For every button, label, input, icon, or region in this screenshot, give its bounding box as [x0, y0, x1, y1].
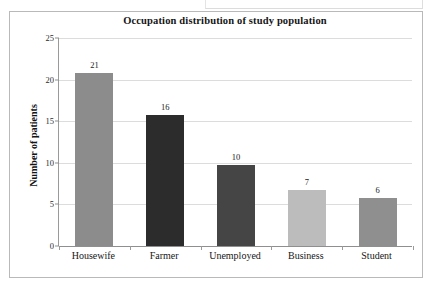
plot-area: 0510152025 21161076 — [58, 38, 412, 246]
x-axis-label-housewife: Housewife — [72, 250, 115, 261]
bar-value-label: 21 — [90, 60, 99, 70]
x-axis-label-unemployed: Unemployed — [209, 250, 261, 261]
y-tick-label-15: 15 — [46, 116, 55, 126]
y-tick-label-20: 20 — [46, 75, 55, 85]
bar-slot: 21 — [59, 38, 130, 246]
x-tick-mark — [413, 246, 414, 250]
bar-value-label: 10 — [232, 152, 241, 162]
y-tick-label-0: 0 — [50, 241, 54, 251]
scan-artifact — [205, 0, 423, 9]
bar-value-label: 6 — [375, 185, 379, 195]
chart-title: Occupation distribution of study populat… — [60, 15, 390, 26]
bar-value-label: 16 — [161, 102, 170, 112]
bar[interactable]: 16 — [146, 115, 184, 246]
bar[interactable]: 7 — [288, 190, 326, 246]
bar-slot: 10 — [201, 38, 272, 246]
bar-slot: 16 — [130, 38, 201, 246]
bar-series: 21161076 — [59, 38, 412, 246]
bar[interactable]: 6 — [359, 198, 397, 246]
bar[interactable]: 21 — [75, 73, 113, 246]
gridline-0 — [59, 246, 412, 247]
bar-value-label: 7 — [305, 177, 309, 187]
x-axis-label-student: Student — [361, 250, 392, 261]
bar-slot: 7 — [271, 38, 342, 246]
y-tick-label-10: 10 — [46, 158, 55, 168]
y-axis-title: Number of patients — [28, 91, 39, 201]
bar-slot: 6 — [342, 38, 413, 246]
x-axis-labels: HousewifeFarmerUnemployedBusinessStudent — [58, 250, 412, 268]
y-tick-label-5: 5 — [50, 199, 54, 209]
bar[interactable]: 10 — [217, 165, 255, 246]
x-axis-label-business: Business — [288, 250, 324, 261]
x-axis-label-farmer: Farmer — [150, 250, 179, 261]
y-tick-label-25: 25 — [46, 33, 55, 43]
